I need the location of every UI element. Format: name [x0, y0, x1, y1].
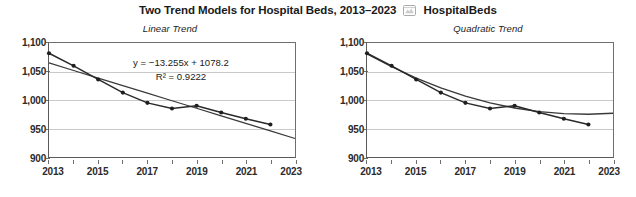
- data-series-quadratic: [367, 53, 588, 124]
- y-tick-label: 1,000: [320, 95, 364, 106]
- x-axis-tick: [391, 160, 392, 164]
- x-axis-tick: [614, 160, 615, 164]
- equation-box-linear: y = −13.255x + 1078.2 R² = 0.9222: [96, 56, 266, 83]
- spreadsheet-icon: [403, 5, 416, 16]
- x-axis-tick: [98, 160, 99, 164]
- data-markers-quadratic: [365, 51, 591, 126]
- chart-title-linear: Linear Trend: [0, 23, 318, 34]
- chart-panel-quadratic: Quadratic Trend 900 950 1,000 1,050 1,10…: [318, 20, 636, 197]
- x-tick-label: 2013: [42, 166, 63, 177]
- x-axis-tick: [490, 160, 491, 164]
- x-axis-tick: [416, 160, 417, 164]
- x-axis-tick: [564, 160, 565, 164]
- x-axis-tick: [73, 160, 74, 164]
- x-axis-tick: [271, 160, 272, 164]
- y-tick-label: 1,100: [2, 37, 46, 48]
- x-axis-tick: [246, 160, 247, 164]
- x-axis-tick: [172, 160, 173, 164]
- y-tick-label: 950: [320, 124, 364, 135]
- x-axis-tick: [147, 160, 148, 164]
- series-layer-quadratic: [367, 43, 613, 157]
- y-axis-quadratic: 900 950 1,000 1,050 1,100: [318, 42, 364, 158]
- x-tick-label: 2019: [186, 166, 207, 177]
- y-tick-label: 900: [2, 153, 46, 164]
- r-squared-linear: R² = 0.9222: [96, 70, 266, 84]
- trendline-quadratic: [367, 54, 613, 114]
- x-axis-tick: [197, 160, 198, 164]
- x-axis-tick: [540, 160, 541, 164]
- x-tick-label: 2021: [554, 166, 575, 177]
- workbook-name: HospitalBeds: [423, 4, 497, 16]
- chart-title-quadratic: Quadratic Trend: [318, 23, 636, 34]
- y-axis-linear: 900 950 1,000 1,050 1,100: [0, 42, 46, 158]
- x-axis-tick: [296, 160, 297, 164]
- x-axis-linear: 2013 2015 2017 2019 2021 2023: [48, 160, 296, 182]
- chart-panel-linear: Linear Trend 900 950 1,000 1,050 1,100: [0, 20, 318, 197]
- y-axis-tick: [364, 158, 368, 159]
- x-axis-tick: [589, 160, 590, 164]
- x-tick-label: 2017: [454, 166, 475, 177]
- y-tick-label: 1,050: [320, 66, 364, 77]
- y-tick-label: 1,050: [2, 66, 46, 77]
- y-tick-label: 900: [320, 153, 364, 164]
- x-axis-tick: [465, 160, 466, 164]
- y-tick-label: 1,100: [320, 37, 364, 48]
- x-axis-quadratic: 2013 2015 2017 2019 2021 2023: [366, 160, 614, 182]
- x-tick-label: 2015: [405, 166, 426, 177]
- x-axis-tick: [515, 160, 516, 164]
- page-header: Two Trend Models for Hospital Beds, 2013…: [0, 0, 636, 20]
- x-tick-label: 2015: [87, 166, 108, 177]
- y-axis-tick: [46, 158, 50, 159]
- plot-area-quadratic: [366, 42, 614, 158]
- x-axis-tick: [48, 160, 49, 164]
- trend-equation-linear: y = −13.255x + 1078.2: [96, 56, 266, 70]
- chart-page: Two Trend Models for Hospital Beds, 2013…: [0, 0, 636, 197]
- x-axis-tick: [222, 160, 223, 164]
- x-tick-label: 2013: [360, 166, 381, 177]
- x-axis-tick: [366, 160, 367, 164]
- x-tick-label: 2023: [280, 166, 301, 177]
- y-tick-label: 950: [2, 124, 46, 135]
- x-axis-tick: [440, 160, 441, 164]
- page-title: Two Trend Models for Hospital Beds, 2013…: [139, 4, 396, 16]
- x-tick-label: 2021: [236, 166, 257, 177]
- x-axis-tick: [122, 160, 123, 164]
- x-tick-label: 2019: [504, 166, 525, 177]
- y-tick-label: 1,000: [2, 95, 46, 106]
- x-tick-label: 2023: [598, 166, 619, 177]
- x-tick-label: 2017: [136, 166, 157, 177]
